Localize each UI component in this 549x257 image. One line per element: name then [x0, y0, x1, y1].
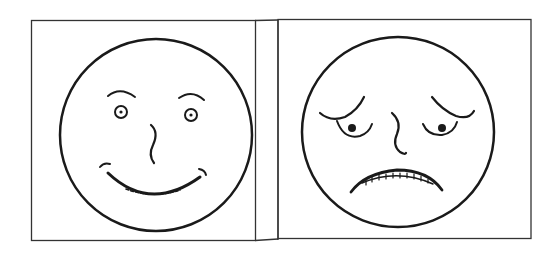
- smile-mouth: [108, 173, 200, 194]
- sad-face-icon: [302, 37, 494, 227]
- left-pupil: [348, 124, 356, 132]
- right-cheek: [199, 169, 206, 175]
- right-eyebrow: [432, 97, 474, 117]
- left-eyebrow: [320, 97, 364, 119]
- nose: [151, 125, 156, 163]
- faces-diagram: [0, 0, 549, 257]
- right-eyebrow: [179, 94, 204, 100]
- left-eyebrow: [108, 91, 135, 97]
- left-cheek: [100, 163, 110, 167]
- right-pupil: [438, 124, 446, 132]
- nose: [392, 113, 406, 154]
- happy-face-icon: [60, 39, 252, 231]
